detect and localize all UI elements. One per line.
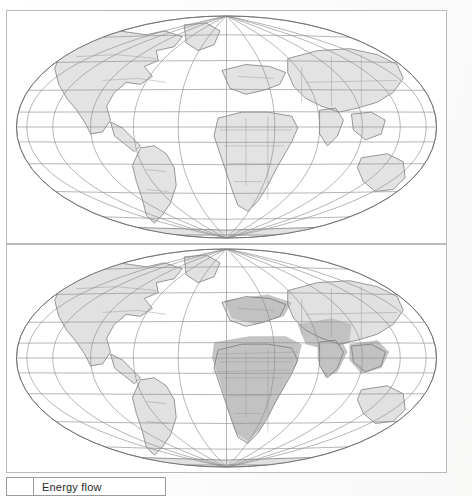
world-map-upper-svg (7, 11, 446, 243)
legend-table[interactable]: Energy flow (6, 477, 166, 496)
map-panel-upper[interactable] (6, 10, 447, 244)
map-panel-lower[interactable] (6, 244, 447, 473)
world-map-lower-svg (7, 245, 446, 472)
legend-label: Energy flow (34, 478, 165, 495)
page-canvas: Energy flow (0, 0, 472, 496)
legend-swatch-cell (7, 478, 34, 495)
